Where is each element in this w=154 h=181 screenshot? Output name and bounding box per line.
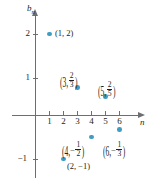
minus-sign: − <box>111 145 116 155</box>
x-axis-label: n <box>140 118 145 127</box>
data-point-6 <box>117 127 122 132</box>
y-ticklabel-1: 1 <box>16 73 30 82</box>
fraction-denominator: 2 <box>75 149 81 158</box>
fraction-1-3: 13 <box>116 141 122 157</box>
x-tick-4 <box>91 111 92 115</box>
data-point-label-4: (4,−12) <box>62 141 84 157</box>
x-tick-6 <box>119 111 120 115</box>
data-point-4 <box>89 135 94 140</box>
x-tick-3 <box>77 111 78 115</box>
y-axis-label: bn <box>27 4 35 15</box>
paren-open: (6, <box>103 144 111 158</box>
paren-open: (4, <box>62 144 70 158</box>
minus-sign: − <box>70 145 75 155</box>
x-ticklabel-4: 4 <box>87 117 97 126</box>
y-ticklabel-2: 2 <box>16 29 30 38</box>
fraction-numerator: 2 <box>69 72 75 80</box>
x-tick-1 <box>49 111 50 115</box>
y-tick-minus-1 <box>33 159 38 160</box>
paren-close: ) <box>75 75 78 89</box>
y-tick-2 <box>33 34 38 35</box>
fraction-2-3: 23 <box>69 72 75 88</box>
paren-open: (3, <box>60 75 68 89</box>
fraction-numerator: 1 <box>75 141 81 149</box>
paren-close: ) <box>82 144 85 158</box>
paren-open: (5, <box>98 84 106 98</box>
x-ticklabel-5: 5 <box>101 117 111 126</box>
x-ticklabel-3: 3 <box>73 117 83 126</box>
data-point-label-1: (1, 2) <box>55 29 73 38</box>
fraction-numerator: 1 <box>116 141 122 149</box>
paren-close: ) <box>123 144 126 158</box>
data-point-label-5: (5,25) <box>98 81 115 97</box>
x-ticklabel-6: 6 <box>115 117 125 126</box>
y-ticklabel-minus-1: −1 <box>13 154 27 163</box>
fraction-denominator: 3 <box>69 80 75 89</box>
fraction-denominator: 5 <box>107 89 113 98</box>
data-point-label-3: (3,23) <box>60 72 77 88</box>
x-ticklabel-2: 2 <box>59 117 69 126</box>
x-tick-2 <box>63 111 64 115</box>
fraction-numerator: 2 <box>107 81 113 89</box>
scatter-plot: bn n 2 1 −1 1 2 3 4 5 6 (1, 2) (2, −1) (… <box>0 0 154 181</box>
data-point-1 <box>47 32 52 37</box>
x-tick-5 <box>105 111 106 115</box>
x-ticklabel-1: 1 <box>45 117 55 126</box>
y-axis-label-subscript: n <box>32 8 35 15</box>
fraction-2-5: 25 <box>107 81 113 97</box>
y-axis-line <box>35 14 36 178</box>
fraction-denominator: 3 <box>116 149 122 158</box>
fraction-1-2: 12 <box>75 141 81 157</box>
y-tick-1 <box>33 78 38 79</box>
data-point-label-2: (2, −1) <box>67 162 90 171</box>
data-point-label-6: (6,−13) <box>103 141 125 157</box>
paren-close: ) <box>113 84 116 98</box>
